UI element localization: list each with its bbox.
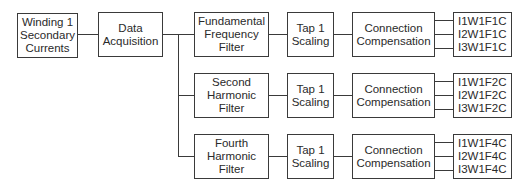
box-label-line: Second xyxy=(212,76,251,89)
connector-line xyxy=(435,95,453,96)
box-label-line: Data xyxy=(118,22,142,35)
box-label-line: Frequency xyxy=(204,28,258,41)
connector-line xyxy=(435,142,453,143)
connector-line xyxy=(435,48,453,49)
winding-1-secondary-currents-box: Winding 1 Secondary Currents xyxy=(17,13,78,58)
box-label-line: Currents xyxy=(25,42,69,55)
tap-1-scaling-box: Tap 1 Scaling xyxy=(287,134,334,179)
output-signal-label: I3W1F1C xyxy=(458,41,507,54)
output-signal-label: I2W1F1C xyxy=(458,28,507,41)
connector-line xyxy=(435,109,453,110)
connector-line xyxy=(334,34,352,35)
fundamental-frequency-filter-box: Fundamental Frequency Filter xyxy=(194,12,269,57)
box-label-line: Harmonic xyxy=(207,89,256,102)
box-label-line: Tap 1 xyxy=(296,144,324,157)
box-label-line: Compensation xyxy=(356,35,430,48)
box-label-line: Scaling xyxy=(292,157,330,170)
output-signal-label: I1W1F4C xyxy=(458,137,507,150)
box-label-line: Secondary xyxy=(20,29,75,42)
fourth-harmonic-filter-box: Fourth Harmonic Filter xyxy=(194,134,269,179)
connector-line xyxy=(178,156,194,157)
box-label-line: Filter xyxy=(219,41,245,54)
output-signals-box: I1W1F1C I2W1F1C I3W1F1C xyxy=(453,12,512,57)
box-label-line: Filter xyxy=(219,163,245,176)
connector-line xyxy=(269,156,287,157)
connector-line xyxy=(435,170,453,171)
data-acquisition-box: Data Acquisition xyxy=(98,12,163,57)
connector-line xyxy=(334,156,352,157)
output-signal-label: I2W1F4C xyxy=(458,150,507,163)
box-label-line: Acquisition xyxy=(103,35,159,48)
connector-line xyxy=(269,34,287,35)
output-signal-label: I3W1F2C xyxy=(458,102,507,115)
box-label-line: Fourth xyxy=(215,137,248,150)
connector-line xyxy=(334,95,352,96)
box-label-line: Scaling xyxy=(292,96,330,109)
connector-line xyxy=(435,20,453,21)
box-label-line: Connection xyxy=(364,83,422,96)
tap-1-scaling-box: Tap 1 Scaling xyxy=(287,12,334,57)
box-label-line: Filter xyxy=(219,102,245,115)
box-label-line: Connection xyxy=(364,22,422,35)
box-label-line: Winding 1 xyxy=(22,16,73,29)
output-signal-label: I2W1F2C xyxy=(458,89,507,102)
connection-compensation-box: Connection Compensation xyxy=(352,73,435,118)
connector-line xyxy=(178,95,194,96)
box-label-line: Scaling xyxy=(292,35,330,48)
connector-line xyxy=(435,156,453,157)
box-label-line: Compensation xyxy=(356,96,430,109)
box-label-line: Fundamental xyxy=(198,15,265,28)
box-label-line: Tap 1 xyxy=(296,83,324,96)
connector-line xyxy=(435,81,453,82)
box-label-line: Harmonic xyxy=(207,150,256,163)
connector-line xyxy=(435,34,453,35)
connection-compensation-box: Connection Compensation xyxy=(352,134,435,179)
output-signals-box: I1W1F4C I2W1F4C I3W1F4C xyxy=(453,134,512,179)
connector-line xyxy=(269,95,287,96)
output-signal-label: I1W1F1C xyxy=(458,15,507,28)
box-label-line: Compensation xyxy=(356,157,430,170)
output-signals-box: I1W1F2C I2W1F2C I3W1F2C xyxy=(453,73,512,118)
output-signal-label: I3W1F4C xyxy=(458,163,507,176)
output-signal-label: I1W1F2C xyxy=(458,76,507,89)
box-label-line: Tap 1 xyxy=(296,22,324,35)
connector-line xyxy=(78,34,98,35)
box-label-line: Connection xyxy=(364,144,422,157)
tap-1-scaling-box: Tap 1 Scaling xyxy=(287,73,334,118)
second-harmonic-filter-box: Second Harmonic Filter xyxy=(194,73,269,118)
connection-compensation-box: Connection Compensation xyxy=(352,12,435,57)
